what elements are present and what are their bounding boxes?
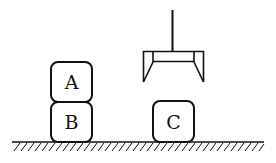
block-a: A (51, 62, 92, 102)
gripper-left-jaw (144, 51, 154, 82)
blocks-world-diagram: A B C (0, 0, 276, 163)
block-b-label: B (65, 111, 79, 133)
robot-gripper (143, 10, 204, 82)
block-c: C (153, 101, 194, 142)
block-a-label: A (64, 71, 79, 93)
gripper-right-jaw (194, 51, 204, 82)
ground (12, 142, 264, 151)
block-b: B (51, 102, 92, 142)
block-c-label: C (166, 111, 181, 133)
